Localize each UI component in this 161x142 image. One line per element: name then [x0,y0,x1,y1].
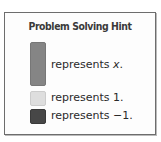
unit-tile-icon [30,91,46,106]
negative-unit-tile-icon [30,109,46,124]
x-tile-icon [30,42,46,86]
x-tile-label-prefix: represents [51,58,113,71]
negative-unit-tile-label: represents −1. [51,109,133,122]
problem-solving-hint-box: Problem Solving Hint represents x. repre… [4,12,156,135]
hint-title: Problem Solving Hint [16,20,144,33]
x-tile-label: represents x. [51,58,123,71]
unit-tile-label: represents 1. [51,91,124,104]
x-tile-label-suffix: . [120,58,124,71]
